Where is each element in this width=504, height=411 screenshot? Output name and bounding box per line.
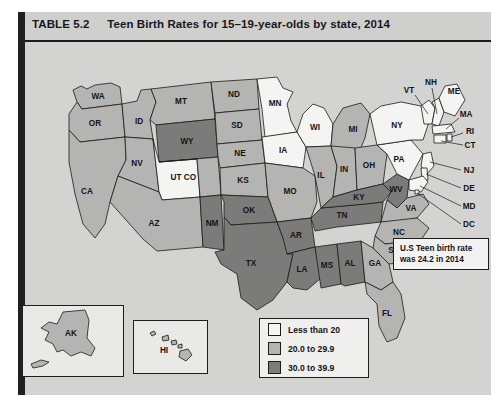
state-label-HI: HI	[160, 346, 168, 355]
note-line-1: U.S Teen birth rate	[400, 243, 488, 254]
legend-item: 30.0 to 39.9	[268, 359, 368, 376]
state-label-WI: WI	[310, 123, 320, 132]
leader-line-NJ	[430, 162, 461, 170]
state-label-WY: WY	[180, 137, 194, 146]
state-label-IN: IN	[340, 165, 348, 174]
state-HI[interactable]	[150, 331, 192, 361]
state-label-NJ: NJ	[464, 166, 474, 175]
state-label-TX: TX	[246, 259, 257, 268]
state-label-MT: MT	[175, 97, 187, 106]
figure-page: TABLE 5.2 Teen Birth Rates for 15–19-yea…	[0, 0, 504, 411]
state-label-CO: CO	[184, 173, 197, 182]
state-label-MD: MD	[463, 202, 476, 211]
state-label-KY: KY	[353, 193, 365, 202]
state-label-AZ: AZ	[149, 219, 160, 228]
state-label-MN: MN	[269, 99, 282, 108]
state-label-NC: NC	[393, 228, 405, 237]
state-label-WA: WA	[91, 92, 104, 101]
state-label-MO: MO	[283, 187, 297, 196]
legend-label-less-than-20: Less than 20	[288, 325, 340, 335]
leader-line-RI	[451, 133, 463, 137]
state-label-GA: GA	[369, 259, 381, 268]
state-label-WV: WV	[389, 185, 403, 194]
state-label-SD: SD	[231, 121, 242, 130]
state-label-ME: ME	[448, 87, 461, 96]
state-label-CA: CA	[81, 187, 93, 196]
state-label-NY: NY	[391, 121, 403, 130]
alaska-aleutians	[31, 360, 49, 368]
state-label-VT: VT	[404, 86, 414, 95]
state-label-NE: NE	[234, 149, 246, 158]
legend-item: Less than 20	[268, 321, 368, 338]
legend-label-20-to-29: 20.0 to 29.9	[288, 344, 334, 354]
state-label-OK: OK	[243, 206, 255, 215]
hawaii-inset: HI	[133, 320, 208, 374]
state-label-RI: RI	[466, 127, 474, 136]
state-label-KS: KS	[237, 176, 249, 185]
state-label-PA: PA	[394, 155, 405, 164]
hawaii-map: HI	[134, 321, 205, 371]
note-line-2: was 24.2 in 2014	[400, 254, 488, 265]
state-label-DC: DC	[463, 220, 475, 229]
national-rate-note: U.S Teen birth rate was 24.2 in 2014	[393, 238, 489, 270]
legend-label-30-to-39: 30.0 to 39.9	[288, 363, 334, 373]
state-label-CT: CT	[465, 141, 476, 150]
figure-title: TABLE 5.2 Teen Birth Rates for 15–19-yea…	[32, 18, 472, 36]
page-title: Teen Birth Rates for 15–19-year-olds by …	[107, 18, 390, 30]
legend-swatch-30-to-39	[268, 361, 281, 374]
state-label-ID: ID	[135, 117, 143, 126]
alaska-inset: AK	[22, 305, 124, 377]
legend-item: 20.0 to 29.9	[268, 340, 368, 357]
state-RI[interactable]	[447, 134, 452, 141]
state-label-NM: NM	[206, 219, 219, 228]
state-label-IL: IL	[317, 171, 324, 180]
state-label-DE: DE	[463, 184, 475, 193]
state-label-UT: UT	[171, 173, 182, 182]
legend-swatch-less-than-20	[268, 323, 281, 336]
state-label-LA: LA	[297, 265, 308, 274]
map-legend: Less than 20 20.0 to 29.9 30.0 to 39.9	[259, 318, 369, 378]
state-label-AK: AK	[65, 329, 77, 338]
state-label-AL: AL	[345, 259, 356, 268]
state-label-TN: TN	[337, 211, 348, 220]
state-label-MS: MS	[321, 261, 334, 270]
legend-swatch-20-to-29	[268, 342, 281, 355]
state-label-VA: VA	[406, 204, 417, 213]
state-label-OH: OH	[363, 161, 375, 170]
state-label-NH: NH	[425, 78, 437, 87]
alaska-map: AK	[23, 306, 121, 374]
state-MA[interactable]	[432, 124, 455, 134]
state-label-FL: FL	[382, 309, 392, 318]
table-number: TABLE 5.2	[32, 18, 90, 30]
state-label-MI: MI	[348, 125, 357, 134]
state-label-ND: ND	[228, 90, 240, 99]
leader-line-DE	[426, 174, 461, 188]
state-label-MA: MA	[460, 110, 473, 119]
state-label-OR: OR	[89, 119, 101, 128]
state-ID[interactable]	[122, 89, 156, 139]
state-label-AR: AR	[290, 231, 302, 240]
state-label-NV: NV	[131, 159, 143, 168]
state-label-IA: IA	[279, 146, 287, 155]
